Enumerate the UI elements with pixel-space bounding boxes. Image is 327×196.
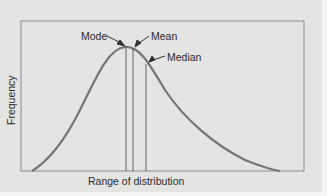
- plot-frame: [21, 21, 304, 171]
- diagram-card: Mode Mean Median Frequency Range of dist…: [0, 0, 322, 192]
- distribution-diagram: Mode Mean Median Frequency Range of dist…: [0, 0, 327, 196]
- mean-arrowhead-icon: [135, 40, 141, 47]
- mode-label: Mode: [81, 30, 107, 42]
- median-arrowhead-icon: [149, 56, 155, 62]
- median-label: Median: [167, 51, 202, 63]
- distribution-curve: [32, 47, 280, 171]
- y-axis-label: Frequency: [5, 75, 17, 125]
- mode-arrowhead-icon: [117, 40, 125, 46]
- mean-arrow: [139, 36, 149, 43]
- mean-label: Mean: [151, 30, 177, 42]
- x-axis-label: Range of distribution: [88, 175, 184, 187]
